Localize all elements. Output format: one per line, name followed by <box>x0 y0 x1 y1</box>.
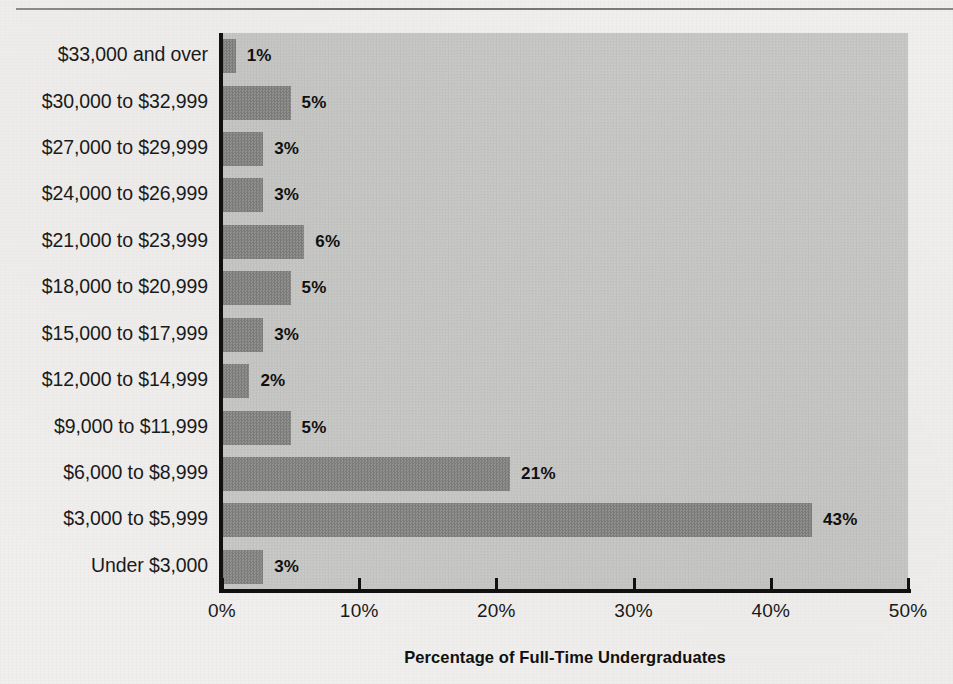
x-axis-tick <box>907 578 910 591</box>
bar-value-label: 5% <box>302 93 327 113</box>
bar-value-label: 21% <box>521 464 556 484</box>
bar <box>222 457 510 491</box>
bar <box>222 225 304 259</box>
bar <box>222 86 291 120</box>
x-axis-tick-label: 0% <box>162 600 282 622</box>
bar <box>222 178 263 212</box>
category-label: $3,000 to $5,999 <box>0 507 208 530</box>
bar <box>222 550 263 584</box>
top-divider-rule <box>16 8 953 10</box>
x-axis-tick-label: 50% <box>848 600 953 622</box>
bar-value-label: 5% <box>302 418 327 438</box>
x-axis-tick <box>495 578 498 591</box>
x-axis-title: Percentage of Full-Time Undergraduates <box>222 648 908 667</box>
bar-value-label: 43% <box>823 510 858 530</box>
bar <box>222 503 812 537</box>
category-label: $18,000 to $20,999 <box>0 275 208 298</box>
x-axis-tick-label: 10% <box>299 600 419 622</box>
x-axis-tick <box>770 578 773 591</box>
x-axis-tick-label: 30% <box>574 600 694 622</box>
bar-value-label: 2% <box>260 371 285 391</box>
bar <box>222 318 263 352</box>
bar-value-label: 3% <box>274 557 299 577</box>
x-axis-line <box>219 589 911 593</box>
category-label: $6,000 to $8,999 <box>0 461 208 484</box>
bar <box>222 411 291 445</box>
category-label: $30,000 to $32,999 <box>0 90 208 113</box>
bar-value-label: 3% <box>274 185 299 205</box>
category-label: $15,000 to $17,999 <box>0 322 208 345</box>
category-label: Under $3,000 <box>0 554 208 577</box>
bar <box>222 364 249 398</box>
bar <box>222 271 291 305</box>
bar-value-label: 1% <box>247 46 272 66</box>
x-axis-tick <box>221 578 224 591</box>
x-axis-tick <box>633 578 636 591</box>
bar-value-label: 5% <box>302 278 327 298</box>
bar <box>222 132 263 166</box>
category-label: $21,000 to $23,999 <box>0 229 208 252</box>
category-label: $33,000 and over <box>0 43 208 66</box>
bar-value-label: 3% <box>274 139 299 159</box>
category-label: $27,000 to $29,999 <box>0 136 208 159</box>
bar-value-label: 3% <box>274 325 299 345</box>
category-label: $24,000 to $26,999 <box>0 182 208 205</box>
x-axis-tick-label: 20% <box>436 600 556 622</box>
category-label: $9,000 to $11,999 <box>0 415 208 438</box>
y-axis-line <box>219 33 223 593</box>
bar-value-label: 6% <box>315 232 340 252</box>
bar <box>222 39 236 73</box>
x-axis-tick-label: 40% <box>711 600 831 622</box>
x-axis-tick <box>358 578 361 591</box>
category-label: $12,000 to $14,999 <box>0 368 208 391</box>
bar-chart-figure: 0%10%20%30%40%50% 1%5%3%3%6%5%3%2%5%21%4… <box>0 0 953 684</box>
